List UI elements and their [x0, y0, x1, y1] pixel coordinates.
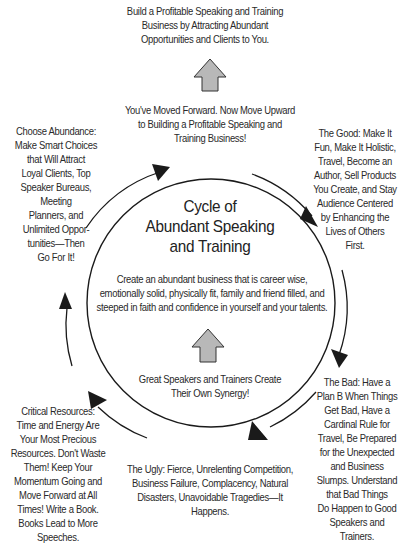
diagram-title: Cycle of Abundant Speaking and Training — [120, 197, 300, 257]
center-statement-text: Create an abundant business that is care… — [83, 272, 341, 314]
cycle-arrowhead-top — [152, 164, 170, 181]
stage-good-text: The Good: Make It Fun, Make It Holistic,… — [305, 126, 405, 252]
cycle-arrowhead-left — [59, 292, 72, 309]
stage-critical-resources-text: Critical Resources: Time and Energy Are … — [1, 404, 115, 544]
stage-ugly-text: The Ugly: Fierce, Unrelenting Competitio… — [120, 462, 301, 518]
move-upward-text: You've Moved Forward. Now Move Upward to… — [115, 103, 304, 145]
up-arrow-center — [192, 329, 224, 362]
stage-choose-abundance-text: Choose Abundance: Make Smart Choices tha… — [5, 124, 106, 264]
cycle-arrowhead-bottom-fill — [248, 421, 268, 440]
cycle-arc-left — [66, 308, 72, 366]
top-goal-text: Build a Profitable Speaking and Training… — [110, 4, 299, 46]
stage-bad-text: The Bad: Have a Plan B When Things Get B… — [312, 375, 401, 543]
up-arrow-top — [194, 59, 226, 91]
synergy-text: Great Speakers and Trainers Create Their… — [133, 372, 288, 400]
